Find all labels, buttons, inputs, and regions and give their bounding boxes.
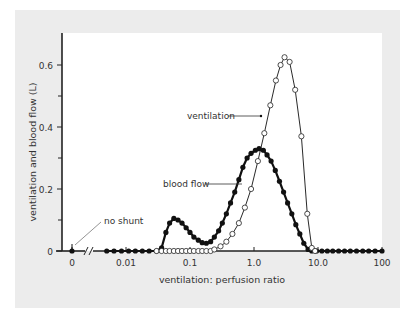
ventilation-marker (312, 248, 317, 253)
x-tick-label: 1.0 (247, 258, 262, 268)
blood-flow-marker (133, 248, 138, 253)
blood-flow-marker (319, 248, 324, 253)
blood-flow-marker (289, 211, 294, 216)
blood-flow-marker (220, 221, 225, 226)
ventilation-marker (293, 87, 298, 92)
y-tick-label: 0.4 (39, 123, 54, 133)
blood-flow-marker (126, 248, 131, 253)
blood-flow-marker (285, 200, 290, 205)
ventilation-marker (242, 205, 247, 210)
ventilation-marker (305, 211, 310, 216)
x-tick-label: 10.0 (308, 258, 328, 268)
blood-flow-marker (216, 228, 221, 233)
blood-flow-marker (163, 230, 168, 235)
ventilation-marker (255, 159, 260, 164)
x-tick-label: 100 (373, 258, 390, 268)
blood-flow-marker (119, 248, 124, 253)
blood-flow-marker (342, 248, 347, 253)
blood-flow-marker (104, 248, 109, 253)
annotation-blood-flow: blood flow (163, 179, 209, 189)
y-tick-label: 0.6 (39, 61, 54, 71)
blood-flow-marker (325, 248, 330, 253)
blood-flow-marker (336, 248, 341, 253)
blood-flow-marker (224, 211, 229, 216)
blood-flow-marker (330, 248, 335, 253)
blood-flow-marker (167, 221, 172, 226)
ventilation-marker (212, 247, 217, 252)
annotation-ventilation: ventilation (187, 111, 235, 121)
blood-flow-marker (187, 230, 192, 235)
ventilation-marker (224, 239, 229, 244)
blood-flow-marker (354, 248, 359, 253)
ventilation-marker (287, 59, 292, 64)
x-tick-label: 0.01 (116, 258, 136, 268)
blood-flow-marker (191, 234, 196, 239)
blood-flow-marker (240, 165, 245, 170)
ventilation-marker (268, 103, 273, 108)
ventilation-marker (236, 221, 241, 226)
blood-flow-marker (111, 248, 116, 253)
ventilation-marker (278, 62, 283, 67)
annotation-ventilation-dot (260, 115, 262, 117)
blood-flow-marker (232, 190, 237, 195)
ventilation-marker (154, 248, 159, 253)
ventilation-marker (299, 134, 304, 139)
x-axis-title: ventilation: perfusion ratio (159, 274, 285, 285)
ventilation-marker (262, 131, 267, 136)
blood-flow-marker (236, 177, 241, 182)
blood-flow-marker (184, 225, 189, 230)
blood-flow-marker (379, 248, 384, 253)
blood-flow-marker (179, 221, 184, 226)
blood-flow-marker (281, 190, 286, 195)
ventilation-marker (248, 186, 253, 191)
x-tick-label: 0 (69, 258, 75, 268)
blood-flow-marker (244, 155, 249, 160)
blood-flow-marker (248, 151, 253, 156)
blood-flow-marker (208, 239, 213, 244)
blood-flow-marker (228, 200, 233, 205)
blood-flow-marker (293, 222, 298, 227)
blood-flow-marker (140, 248, 145, 253)
blood-flow-marker (277, 179, 282, 184)
blood-flow-marker (273, 168, 278, 173)
blood-flow-marker (301, 241, 306, 246)
chart: 00.20.40.600.010.11.010.0100 no shuntven… (0, 0, 415, 326)
ventilation-marker (218, 244, 223, 249)
ventilation-marker (282, 55, 287, 60)
y-tick-label: 0 (47, 247, 53, 257)
blood-flow-marker (212, 234, 217, 239)
annotation-no-shunt: no shunt (104, 216, 144, 226)
blood-flow-marker (261, 148, 266, 153)
blood-flow-marker (147, 248, 152, 253)
ventilation-marker (273, 78, 278, 83)
blood-flow-marker (366, 248, 371, 253)
ventilation-marker (230, 231, 235, 236)
blood-flow-marker (297, 231, 302, 236)
blood-flow-marker (348, 248, 353, 253)
blood-flow-marker (372, 248, 377, 253)
blood-flow-marker (268, 159, 273, 164)
y-axis-title: ventilation and blood flow (L) (27, 82, 38, 221)
blood-flow-marker (360, 248, 365, 253)
x-tick-label: 0.1 (183, 258, 197, 268)
y-tick-label: 0.2 (39, 185, 53, 195)
blood-flow-marker (264, 152, 269, 157)
